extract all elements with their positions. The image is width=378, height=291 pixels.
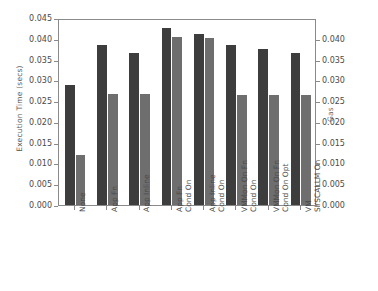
y-axis-right-tick-label: 0.020 [322, 119, 345, 127]
y-axis-left-tick-label: 0.030 [29, 77, 52, 85]
y-axis-right-tick [316, 123, 320, 124]
x-axis-tick-label: VMMon On Fn Cond On Opt [272, 160, 290, 212]
y-axis-right-tick [316, 206, 320, 207]
y-axis-left-tick-label: 0.035 [29, 57, 52, 65]
y-axis-right-tick-label: 0.025 [322, 98, 345, 106]
y-axis-left-tick [54, 185, 58, 186]
bar-chart-figure: Execution Time (secs) Gas NoneApp FnApp … [0, 0, 378, 291]
y-axis-right-tick [316, 164, 320, 165]
bar-execution-time [65, 85, 75, 205]
y-axis-left-tick [54, 164, 58, 165]
y-axis-left-tick [54, 81, 58, 82]
y-axis-right-tick [316, 102, 320, 103]
y-axis-left-tick [54, 40, 58, 41]
x-axis-tick [74, 206, 75, 210]
bar-execution-time [129, 53, 139, 206]
y-axis-right-tick-label: 0.005 [322, 181, 345, 189]
bar-execution-time [258, 49, 268, 205]
x-axis-tick [139, 206, 140, 210]
x-axis-tick [171, 206, 172, 210]
y-axis-left-tick-label: 0.005 [29, 181, 52, 189]
bar-execution-time [162, 28, 172, 205]
y-axis-right-tick [316, 81, 320, 82]
x-axis-tick-label: None [78, 192, 87, 212]
y-axis-left-tick [54, 206, 58, 207]
y-axis-left-tick-label: 0.025 [29, 98, 52, 106]
y-axis-left-tick-label: 0.020 [29, 119, 52, 127]
y-axis-left-tick-label: 0.040 [29, 36, 52, 44]
x-axis-tick-label: App Fn [110, 186, 119, 212]
y-axis-right-tick-label: 0.030 [322, 77, 345, 85]
x-axis-tick-label: App Fn Cond On [175, 180, 193, 212]
y-axis-left-tick-label: 0.000 [29, 202, 52, 210]
y-axis-right-tick-label: 0.000 [322, 202, 345, 210]
y-axis-right-tick [316, 40, 320, 41]
x-axis-tick-label: App Inline Cond On [208, 174, 226, 212]
x-axis-tick [268, 206, 269, 210]
y-axis-left-title: Execution Time (secs) [15, 54, 24, 164]
bar-execution-time [97, 45, 107, 205]
x-axis-tick-label: App Inline [142, 174, 151, 212]
bar-group [162, 20, 182, 205]
bar-execution-time [226, 45, 236, 205]
y-axis-left-tick-label: 0.015 [29, 140, 52, 148]
bar-execution-time [291, 53, 301, 206]
y-axis-left-tick [54, 144, 58, 145]
y-axis-right-tick-label: 0.040 [322, 36, 345, 44]
y-axis-left-tick [54, 123, 58, 124]
x-axis-tick-label: VMMon On Fn Cond On [240, 160, 258, 212]
y-axis-right-tick-label: 0.015 [322, 140, 345, 148]
y-axis-left-tick [54, 19, 58, 20]
y-axis-right-tick [316, 185, 320, 186]
x-axis-tick [106, 206, 107, 210]
bar-execution-time [194, 34, 204, 205]
y-axis-right-tick [316, 144, 320, 145]
y-axis-left-tick [54, 61, 58, 62]
y-axis-right-tick [316, 61, 320, 62]
y-axis-left-tick [54, 102, 58, 103]
y-axis-right-tick-label: 0.010 [322, 160, 345, 168]
y-axis-left-tick-label: 0.045 [29, 15, 52, 23]
bar-group [65, 20, 85, 205]
y-axis-right-tick-label: 0.035 [322, 57, 345, 65]
x-axis-tick [203, 206, 204, 210]
x-axis-tick [235, 206, 236, 210]
y-axis-left-tick-label: 0.010 [29, 160, 52, 168]
x-axis-tick [300, 206, 301, 210]
bar-group [97, 20, 117, 205]
